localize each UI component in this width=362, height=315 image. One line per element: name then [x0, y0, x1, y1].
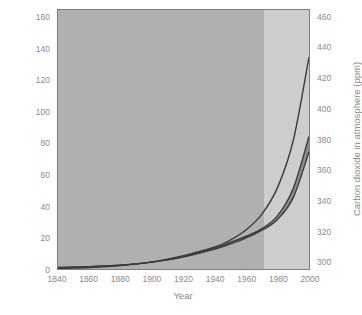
- x-tick: [153, 269, 154, 270]
- right-tick-label: 300: [317, 258, 331, 267]
- x-minor-tick: [264, 269, 265, 270]
- right-tick-label: 460: [317, 13, 331, 22]
- right-tick: [309, 48, 310, 49]
- right-tick-label: 380: [317, 136, 331, 145]
- x-tick-label: 1880: [111, 275, 130, 284]
- left-tick: [57, 113, 58, 114]
- left-minor-tick: [57, 224, 58, 225]
- left-tick: [57, 176, 58, 177]
- x-tick-label: 1900: [142, 275, 161, 284]
- left-minor-tick: [57, 255, 58, 256]
- x-minor-tick: [137, 269, 138, 270]
- left-tick-label: 80: [41, 139, 50, 148]
- x-tick: [216, 269, 217, 270]
- x-tick-label: 1920: [174, 275, 193, 284]
- x-minor-tick: [169, 269, 170, 270]
- x-tick-label: 1840: [48, 275, 67, 284]
- left-minor-tick: [57, 34, 58, 35]
- x-tick-label: 2000: [301, 275, 320, 284]
- x-minor-tick: [232, 269, 233, 270]
- left-tick-label: 20: [41, 234, 50, 243]
- left-tick-label: 40: [41, 203, 50, 212]
- left-tick: [57, 239, 58, 240]
- x-tick: [90, 269, 91, 270]
- right-tick: [309, 263, 310, 264]
- right-tick-label: 420: [317, 74, 331, 83]
- left-tick: [57, 50, 58, 51]
- x-minor-tick: [295, 269, 296, 270]
- left-tick: [57, 81, 58, 82]
- x-tick: [58, 269, 59, 270]
- left-tick: [57, 144, 58, 145]
- left-minor-tick: [57, 192, 58, 193]
- uncertainty-band: [58, 136, 309, 267]
- left-tick: [57, 208, 58, 209]
- atmospheric-co2-upper-curve: [58, 136, 309, 267]
- x-minor-tick: [74, 269, 75, 270]
- x-minor-tick: [105, 269, 106, 270]
- left-minor-tick: [57, 160, 58, 161]
- left-tick-label: 120: [36, 76, 50, 85]
- right-tick: [309, 79, 310, 80]
- x-tick-label: 1940: [206, 275, 225, 284]
- right-tick-label: 360: [317, 166, 331, 175]
- right-axis-title: Carbon dioxide in atmosphere (ppm): [351, 62, 362, 216]
- left-minor-tick: [57, 129, 58, 130]
- right-tick: [309, 202, 310, 203]
- x-tick-label: 1860: [79, 275, 98, 284]
- curve-layer: [58, 10, 309, 269]
- left-minor-tick: [57, 97, 58, 98]
- x-tick: [248, 269, 249, 270]
- left-tick-label: 160: [36, 13, 50, 22]
- left-tick-label: 100: [36, 108, 50, 117]
- left-tick: [57, 18, 58, 19]
- right-tick-label: 320: [317, 228, 331, 237]
- left-tick-label: 60: [41, 171, 50, 180]
- atmospheric-co2-lower-curve: [58, 152, 309, 268]
- right-tick-label: 440: [317, 43, 331, 52]
- x-tick-label: 1960: [237, 275, 256, 284]
- cumulative-input-curve: [58, 57, 309, 268]
- x-minor-tick: [200, 269, 201, 270]
- x-tick: [279, 269, 280, 270]
- right-tick-label: 400: [317, 105, 331, 114]
- x-tick: [185, 269, 186, 270]
- right-tick-label: 340: [317, 197, 331, 206]
- left-tick-label: 140: [36, 45, 50, 54]
- right-tick: [309, 110, 310, 111]
- plot-area: [57, 9, 310, 270]
- x-tick-label: 1980: [269, 275, 288, 284]
- x-axis-title: Year: [173, 290, 192, 301]
- left-minor-tick: [57, 65, 58, 66]
- right-tick: [309, 233, 310, 234]
- right-tick: [309, 141, 310, 142]
- right-tick: [309, 171, 310, 172]
- right-tick: [309, 18, 310, 19]
- x-tick: [121, 269, 122, 270]
